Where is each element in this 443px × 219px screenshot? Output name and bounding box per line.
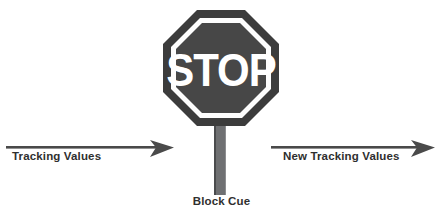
tracking-values-label: Tracking Values (12, 150, 101, 162)
stop-sign-pole (214, 120, 226, 195)
new-tracking-values-label: New Tracking Values (283, 150, 400, 162)
stop-sign-graphic: STOP (161, 8, 281, 128)
stop-sign-text: STOP (166, 44, 276, 96)
block-cue-label: Block Cue (0, 195, 443, 207)
stop-sign: STOP (161, 8, 281, 128)
diagram-canvas: STOP Tracking Values New Tracking Values… (0, 0, 443, 219)
